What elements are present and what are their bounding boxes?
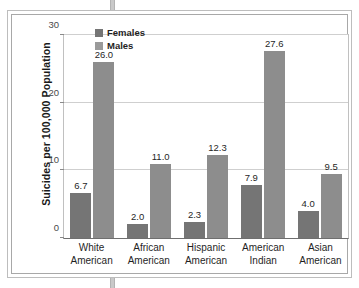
bar-value-label: 4.0: [301, 198, 314, 209]
bar-females: 4.0: [298, 211, 319, 238]
bar-males: 11.0: [150, 164, 171, 238]
bar-value-label: 9.5: [324, 161, 337, 172]
bar-value-label: 11.0: [152, 151, 170, 162]
top-frame-tick: [110, 0, 115, 10]
x-axis-label-line: American: [292, 254, 349, 267]
x-axis-label-line: American: [63, 254, 120, 267]
legend-label-females: Females: [107, 27, 145, 38]
bar-females: 7.9: [241, 185, 262, 238]
bar-females: 2.3: [184, 222, 205, 238]
bar-group: 2.312.3: [178, 35, 235, 238]
bar-males: 9.5: [321, 174, 342, 238]
chart-legend: Females Males: [95, 27, 145, 51]
bar-group: 6.726.0: [64, 35, 121, 238]
x-axis-label-line: American: [120, 254, 177, 267]
bar-males: 12.3: [207, 155, 228, 238]
bar-value-label: 7.9: [245, 172, 258, 183]
bar-females: 6.7: [70, 193, 91, 238]
bar-value-label: 2.0: [131, 211, 144, 222]
bar-males: 27.6: [264, 51, 285, 238]
plot-area: 0102030 6.726.02.011.02.312.37.927.64.09…: [63, 34, 349, 239]
x-axis-label-line: African: [120, 241, 177, 254]
bar-females: 2.0: [127, 224, 148, 238]
x-axis-label-line: Asian: [292, 241, 349, 254]
x-axis-label-line: Hispanic: [177, 241, 234, 254]
x-axis-label: AmericanIndian: [235, 241, 292, 267]
x-axis-label: AsianAmerican: [292, 241, 349, 267]
x-axis-label: HispanicAmerican: [177, 241, 234, 267]
bar-value-label: 12.3: [208, 142, 227, 153]
x-axis-label: WhiteAmerican: [63, 241, 120, 267]
y-axis-title: Suicides per 100,000 Population: [40, 29, 52, 219]
bar-value-label: 6.7: [74, 180, 87, 191]
chart-outer-frame: Suicides per 100,000 Population 0102030 …: [7, 10, 352, 278]
y-tick-label: 20: [48, 86, 59, 97]
legend-item-males: Males: [95, 40, 145, 51]
bar-group: 7.927.6: [234, 35, 291, 238]
legend-swatch-males-icon: [95, 42, 103, 50]
x-axis-label-line: American: [235, 241, 292, 254]
x-axis-label-line: Indian: [235, 254, 292, 267]
x-axis-label-line: American: [177, 254, 234, 267]
bar-value-label: 2.3: [188, 209, 201, 220]
bar-group: 4.09.5: [291, 35, 348, 238]
bar-group: 2.011.0: [121, 35, 178, 238]
x-axis-labels: WhiteAmericanAfricanAmericanHispanicAmer…: [63, 241, 349, 267]
chart-inner-frame: Suicides per 100,000 Population 0102030 …: [11, 14, 348, 274]
bottom-frame-tick: [110, 278, 115, 288]
y-tick-label: 0: [54, 222, 59, 233]
bar-groups: 6.726.02.011.02.312.37.927.64.09.5: [64, 35, 348, 238]
y-tick-label: 30: [48, 19, 59, 30]
x-axis-label-line: White: [63, 241, 120, 254]
y-tick-label: 10: [48, 154, 59, 165]
legend-swatch-females-icon: [95, 29, 103, 37]
bar-males: 26.0: [93, 62, 114, 238]
bar-value-label: 27.6: [265, 38, 284, 49]
legend-label-males: Males: [107, 40, 133, 51]
legend-item-females: Females: [95, 27, 145, 38]
x-axis-label: AfricanAmerican: [120, 241, 177, 267]
